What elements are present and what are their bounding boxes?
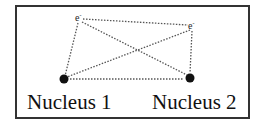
line-e2-nucleus2 — [190, 31, 192, 73]
electron-1-label: e- — [75, 12, 81, 23]
line-e2-nucleus1 — [67, 30, 190, 77]
electron-2-charge: - — [192, 20, 194, 26]
electron-2-label: e- — [188, 20, 194, 31]
line-e1-nucleus1 — [65, 23, 78, 76]
nucleus-1-dot — [60, 75, 69, 84]
nucleus-2-label: Nucleus 2 — [152, 92, 237, 113]
line-e1-e2 — [83, 19, 188, 25]
line-e1-nucleus2 — [82, 22, 187, 75]
nucleus-1-label: Nucleus 1 — [27, 92, 112, 113]
nucleus-2-dot — [186, 74, 195, 83]
electron-1-charge: - — [79, 12, 81, 18]
